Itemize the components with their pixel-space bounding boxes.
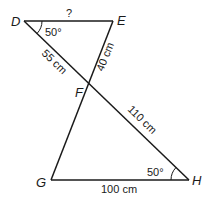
length-label-de: ? <box>66 7 72 19</box>
angle-arc-h <box>171 168 176 181</box>
point-label-g: G <box>36 175 46 190</box>
length-label-fh: 110 cm <box>126 103 160 136</box>
diagram-svg: D E F G H ? 50° 55 cm 40 cm 110 cm 50° 1… <box>0 0 215 200</box>
point-label-e: E <box>117 13 126 28</box>
geometry-diagram: D E F G H ? 50° 55 cm 40 cm 110 cm 50° 1… <box>0 0 215 200</box>
angle-label-d: 50° <box>45 26 62 38</box>
point-label-h: H <box>192 173 202 188</box>
length-label-gh: 100 cm <box>101 183 137 195</box>
length-label-ef: 40 cm <box>94 40 116 72</box>
point-label-f: F <box>75 85 84 100</box>
angle-label-h: 50° <box>147 166 164 178</box>
point-label-d: D <box>11 14 20 29</box>
angle-arc-d <box>37 21 42 34</box>
